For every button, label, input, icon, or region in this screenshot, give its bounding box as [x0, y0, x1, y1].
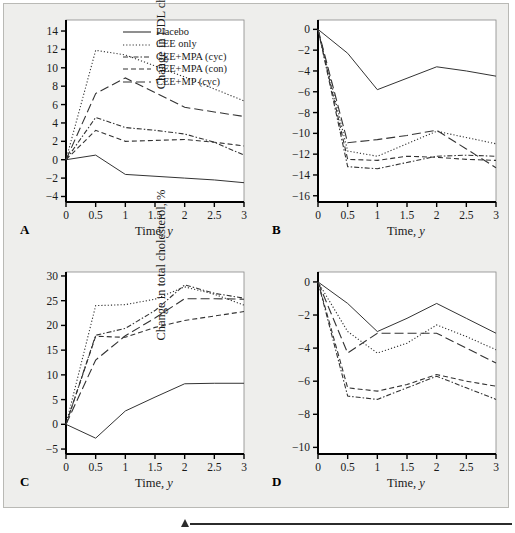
y-tick-label: 0: [52, 154, 58, 166]
y-tick-label: −8: [298, 107, 310, 119]
chart-panel-d: −10−8−6−4−2000.511.522.53Change in total…: [256, 256, 508, 508]
y-tick-label: 0: [304, 276, 310, 288]
y-tick-label: −4: [298, 342, 310, 354]
plot-background: [318, 272, 496, 454]
x-tick-label: 1: [122, 461, 128, 473]
plot-area-c: −505101520253000.511.522.53Change in tri…: [4, 256, 256, 508]
x-axis-label: Time, y: [308, 224, 504, 239]
y-tick-label: 0: [52, 418, 58, 430]
legend-key-icon: [122, 51, 152, 63]
x-tick-label: 3: [241, 461, 247, 473]
x-tick-label: 1.5: [148, 461, 163, 473]
plot-area-a: −4−20246810121400.511.522.53Change in HD…: [4, 4, 256, 256]
x-tick-label: 0.5: [340, 209, 355, 221]
x-tick-label: 3: [493, 461, 499, 473]
x-tick-label: 2: [182, 209, 188, 221]
x-tick-label: 2.5: [207, 209, 222, 221]
x-tick-label: 2.5: [459, 209, 474, 221]
y-tick-label: −4: [298, 65, 310, 77]
panel-letter-a: A: [20, 222, 29, 238]
chart-panel-b: −16−14−12−10−8−6−4−2000.511.522.53Change…: [256, 4, 508, 256]
plot-svg-b: −16−14−12−10−8−6−4−2000.511.522.53: [256, 4, 508, 256]
plot-background: [318, 20, 496, 202]
x-tick-label: 2: [182, 461, 188, 473]
y-tick-label: 4: [52, 117, 58, 129]
y-tick-label: 15: [47, 344, 59, 356]
y-tick-label: 30: [47, 270, 59, 282]
y-tick-label: −16: [292, 190, 310, 202]
y-axis-label: Change in total cholesterol, %: [152, 150, 170, 380]
x-tick-label: 0: [315, 461, 321, 473]
legend-key-icon: [122, 26, 152, 38]
y-tick-label: −10: [292, 441, 310, 453]
x-tick-label: 2: [434, 461, 440, 473]
y-tick-label: −5: [46, 443, 58, 455]
x-tick-label: 1: [374, 461, 380, 473]
y-tick-label: −2: [46, 172, 58, 184]
y-tick-label: 12: [47, 43, 59, 55]
x-tick-label: 0.5: [88, 209, 103, 221]
x-tick-label: 2.5: [459, 461, 474, 473]
y-tick-label: 10: [47, 62, 59, 74]
x-tick-label: 3: [493, 209, 499, 221]
y-tick-label: 10: [47, 369, 59, 381]
x-tick-label: 3: [241, 209, 247, 221]
y-tick-label: −2: [298, 44, 310, 56]
y-tick-label: −8: [298, 408, 310, 420]
y-tick-label: −14: [292, 169, 310, 181]
y-tick-label: 14: [47, 25, 59, 37]
chart-panel-c: −505101520253000.511.522.53Change in tri…: [4, 256, 256, 508]
y-tick-label: −4: [46, 190, 58, 202]
panel-letter-b: B: [272, 222, 281, 238]
y-tick-label: 6: [52, 99, 58, 111]
legend-item-cee-only: CEE only: [122, 38, 227, 50]
y-tick-label: −6: [298, 86, 310, 98]
legend-key-icon: [122, 63, 152, 75]
plot-area-d: −10−8−6−4−2000.511.522.53Change in total…: [256, 256, 508, 508]
y-tick-label: −10: [292, 127, 310, 139]
x-tick-label: 0: [63, 209, 69, 221]
y-tick-label: 25: [47, 295, 59, 307]
footer-triangle-marker: [181, 519, 189, 527]
x-tick-label: 0.5: [88, 461, 103, 473]
legend-item-cee-mpa-cyc: CEE+MPA (cyc): [122, 51, 227, 63]
legend-key-icon: [122, 39, 152, 51]
legend-item-placebo: Placebo: [122, 26, 227, 38]
figure-panel-container: −4−20246810121400.511.522.53Change in HD…: [3, 3, 509, 508]
x-axis-label: Time, y: [308, 476, 504, 491]
chart-panel-a: −4−20246810121400.511.522.53Change in HD…: [4, 4, 256, 256]
x-tick-label: 2.5: [207, 461, 222, 473]
footer-rule: [190, 523, 512, 525]
plot-svg-d: −10−8−6−4−2000.511.522.53: [256, 256, 508, 508]
y-tick-label: 0: [304, 23, 310, 35]
chart-legend: PlaceboCEE onlyCEE+MPA (cyc)CEE+MPA (con…: [122, 26, 227, 88]
x-tick-label: 0: [315, 209, 321, 221]
y-tick-label: 8: [52, 80, 58, 92]
x-tick-label: 1: [374, 209, 380, 221]
panel-letter-d: D: [272, 474, 281, 490]
panel-letter-c: C: [20, 474, 29, 490]
x-axis-label: Time, y: [56, 476, 252, 491]
x-tick-label: 0: [63, 461, 69, 473]
panels-grid: −4−20246810121400.511.522.53Change in HD…: [4, 4, 508, 507]
y-axis-label: Change in LDL cholesterol, %: [152, 0, 170, 128]
x-tick-label: 0.5: [340, 461, 355, 473]
x-tick-label: 2: [434, 209, 440, 221]
y-tick-label: −6: [298, 375, 310, 387]
y-tick-label: 20: [47, 319, 59, 331]
plot-area-b: −16−14−12−10−8−6−4−2000.511.522.53Change…: [256, 4, 508, 256]
y-tick-label: −12: [292, 148, 310, 160]
x-tick-label: 1.5: [400, 209, 415, 221]
plot-svg-c: −505101520253000.511.522.53: [4, 256, 256, 508]
y-tick-label: −2: [298, 309, 310, 321]
y-tick-label: 5: [52, 394, 58, 406]
x-tick-label: 1: [122, 209, 128, 221]
legend-item-cee-mpa-con: CEE+MPA (con): [122, 63, 227, 75]
y-tick-label: 2: [52, 135, 58, 147]
legend-item-cee-mp-cyc: CEE+MP (cyc): [122, 76, 227, 88]
x-tick-label: 1.5: [400, 461, 415, 473]
legend-key-icon: [122, 76, 152, 88]
